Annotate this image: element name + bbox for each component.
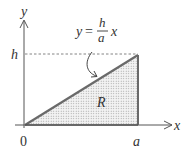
equation-lhs: y — [74, 24, 83, 39]
region-label: R — [96, 95, 106, 110]
equation-equals: = — [85, 24, 93, 39]
x-axis-label: x — [173, 118, 181, 133]
x-tick-label-a: a — [133, 134, 140, 149]
equation-numerator: h — [99, 15, 106, 30]
equation: y = h a x — [74, 15, 118, 45]
y-axis-label: y — [19, 4, 28, 19]
diagram-canvas: y x 0 a h R y = h a x — [0, 0, 196, 154]
equation-denominator: a — [98, 30, 105, 45]
origin-label: 0 — [20, 134, 27, 149]
equation-variable: x — [110, 24, 118, 39]
y-tick-label-h: h — [11, 47, 18, 62]
